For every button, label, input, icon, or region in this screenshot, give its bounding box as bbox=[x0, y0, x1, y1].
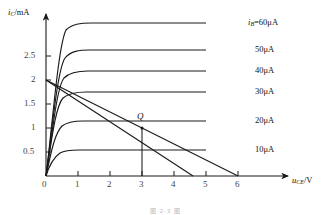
x-tick-3: 3 bbox=[139, 180, 144, 189]
q-point-marker bbox=[141, 127, 144, 177]
y-tick-0.5: 0.5 bbox=[23, 147, 34, 156]
curve-ib-40ua bbox=[46, 71, 206, 176]
x-axis-title: uCE/V bbox=[292, 176, 312, 185]
y-tick-2: 2 bbox=[31, 75, 36, 84]
curve-label-50ua: 50μA bbox=[255, 45, 274, 54]
curve-label-10ua: 10μA bbox=[255, 145, 274, 154]
x-tick-1: 1 bbox=[75, 180, 80, 189]
curve-label-20ua: 20μA bbox=[255, 116, 274, 125]
x-axis-ticks bbox=[78, 171, 238, 176]
x-tick-2: 2 bbox=[107, 180, 112, 189]
figure-caption: 图 2-3 图 bbox=[0, 206, 331, 215]
y-tick-1: 1 bbox=[31, 123, 36, 132]
curve-ib-30ua bbox=[46, 92, 206, 176]
y-tick-2.5: 2.5 bbox=[24, 51, 35, 60]
x-tick-6: 6 bbox=[235, 180, 240, 189]
x-axis-title-sub: CE bbox=[296, 179, 304, 185]
y-axis-title-unit: /mA bbox=[14, 7, 29, 17]
curve-label-ib-60ua: iB=60μA bbox=[248, 18, 278, 27]
characteristic-curves bbox=[46, 23, 206, 176]
x-tick-4: 4 bbox=[171, 180, 176, 189]
curve-label-40ua: 40μA bbox=[255, 66, 274, 75]
x-tick-5: 5 bbox=[203, 180, 208, 189]
curve-label-30ua: 30μA bbox=[255, 87, 274, 96]
curve-label-ib-60ua-rest: =60μA bbox=[254, 17, 278, 27]
ac-load-line bbox=[46, 80, 193, 176]
axes bbox=[46, 14, 288, 176]
y-axis-title: iC/mA bbox=[8, 8, 30, 17]
x-axis-title-unit: /V bbox=[304, 175, 313, 185]
figure-container: 2.5 2 1.5 1 0.5 0 1 2 3 4 5 6 iC/mA uCE/… bbox=[0, 0, 331, 215]
x-tick-0: 0 bbox=[42, 180, 47, 189]
curve-ib-60ua bbox=[46, 23, 206, 176]
output-characteristic-chart bbox=[0, 0, 331, 215]
curve-ib-10ua bbox=[46, 150, 206, 176]
curve-ib-50ua bbox=[46, 50, 206, 176]
q-point-label: Q bbox=[137, 112, 144, 121]
y-tick-1.5: 1.5 bbox=[24, 99, 35, 108]
